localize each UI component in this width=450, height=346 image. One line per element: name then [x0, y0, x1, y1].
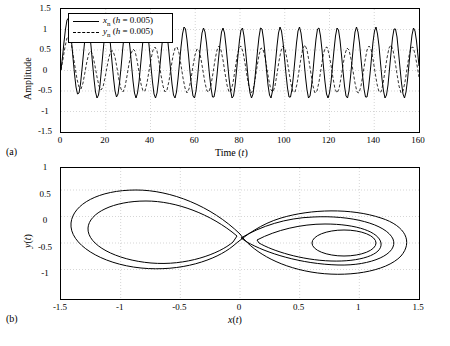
- panel-a-ytick--1: -1: [32, 106, 58, 116]
- panel-a-ytick-1: 1: [32, 24, 58, 34]
- orbit-left-inner: [88, 201, 237, 263]
- panel-a-ylabel: Amplitude: [22, 57, 33, 100]
- panel-a-ytick-1.5: 1.5: [32, 3, 58, 13]
- panel-a-ytick--0.5: -0.5: [32, 85, 58, 95]
- panel-b-xtick-0: 0: [227, 302, 251, 312]
- panel-b-xtick--1: -1: [108, 302, 132, 312]
- panel-a-xtick-100: 100: [273, 135, 295, 145]
- panel-b-xtick-0.5: 0.5: [287, 302, 311, 312]
- legend-entry-yn: yn (h = 0.005): [73, 27, 168, 38]
- orbit-right-inner: [257, 224, 381, 261]
- panel-a-xtick-120: 120: [318, 135, 340, 145]
- panel-b-svg: [61, 168, 419, 299]
- panel-a-xtick-80: 80: [228, 135, 250, 145]
- panel-b-xtick--1.5: -1.5: [48, 302, 72, 312]
- panel-b-plot-area: [60, 167, 420, 300]
- panel-a-ytick-0.5: 0.5: [32, 44, 58, 54]
- legend-swatch-solid: [73, 21, 99, 22]
- legend-swatch-dashed: [73, 32, 99, 33]
- panel-a-tag: (a): [6, 146, 17, 157]
- panel-b-tag: (b): [6, 313, 18, 324]
- panel-b-ytick--0.5: -0.5: [32, 242, 58, 252]
- panel-a-xtick-40: 40: [139, 135, 161, 145]
- panel-b-ylabel: y(t): [22, 234, 33, 248]
- panel-a-xtick-160: 160: [407, 135, 429, 145]
- figure-container: xn (h = 0.005) yn (h = 0.005) -1.5 -1 -0…: [0, 0, 450, 346]
- panel-b-xtick--0.5: -0.5: [167, 302, 191, 312]
- panel-a-xtick-60: 60: [183, 135, 205, 145]
- panel-b-ytick-0.5: 0.5: [32, 189, 58, 199]
- panel-a-xlabel: Time (t): [215, 147, 248, 158]
- panel-b-ytick-1: 1: [32, 162, 58, 172]
- legend-label-yn: yn (h = 0.005): [103, 26, 153, 39]
- panel-a-xtick-20: 20: [94, 135, 116, 145]
- panel-b-xtick-1: 1: [346, 302, 370, 312]
- panel-a-xtick-0: 0: [49, 135, 71, 145]
- panel-b-ytick-0: 0: [32, 215, 58, 225]
- panel-a-legend: xn (h = 0.005) yn (h = 0.005): [68, 13, 173, 43]
- panel-a-xtick-140: 140: [362, 135, 384, 145]
- orbit-outer: [71, 190, 407, 274]
- panel-a-ytick-0: 0: [32, 65, 58, 75]
- panel-b-ytick--1: -1: [32, 268, 58, 278]
- panel-b-xtick-1.5: 1.5: [406, 302, 430, 312]
- panel-b-xlabel: x(t): [228, 314, 242, 325]
